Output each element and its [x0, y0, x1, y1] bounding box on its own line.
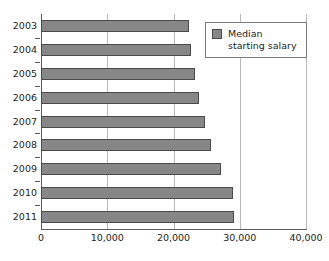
y-axis-tick [35, 38, 40, 39]
y-axis-label-2006: 2006 [3, 92, 37, 104]
x-axis-line [41, 229, 307, 230]
y-axis-tick [35, 157, 40, 158]
bar-2005 [41, 68, 195, 80]
bar-2008 [41, 139, 211, 151]
bar-row [41, 92, 306, 104]
y-axis-tick [35, 110, 40, 111]
y-axis-label-2010: 2010 [3, 187, 37, 199]
x-axis-tick-label-40000: 40,000 [289, 232, 322, 243]
bar-row [41, 139, 306, 151]
x-axis-tick-label-0: 0 [38, 232, 44, 243]
y-axis-label-2011: 2011 [3, 211, 37, 223]
x-axis-tick-labels: 010,00020,00030,00040,000 [0, 232, 329, 248]
y-axis-tick [35, 181, 40, 182]
bar-2011 [41, 211, 234, 223]
bar-row [41, 211, 306, 223]
bar-row [41, 163, 306, 175]
bar-row [41, 68, 306, 80]
bar-row [41, 116, 306, 128]
y-axis-label-2007: 2007 [3, 116, 37, 128]
legend-swatch-median-starting-salary [212, 29, 222, 39]
bar-2004 [41, 44, 191, 56]
y-axis-label-2008: 2008 [3, 139, 37, 151]
y-axis-label-2003: 2003 [3, 20, 37, 32]
y-axis-tick [35, 205, 40, 206]
y-axis-label-2005: 2005 [3, 68, 37, 80]
y-axis-tick [35, 86, 40, 87]
y-axis-tick [35, 133, 40, 134]
y-axis-label-2009: 2009 [3, 163, 37, 175]
bar-row [41, 187, 306, 199]
legend-label: Median starting salary [228, 28, 302, 51]
x-axis-tick-label-30000: 30,000 [223, 232, 256, 243]
y-axis-label-2004: 2004 [3, 44, 37, 56]
bar-2010 [41, 187, 233, 199]
bar-chart: 200320042005200620072008200920102011 010… [0, 0, 329, 261]
x-axis-tick-label-10000: 10,000 [91, 232, 124, 243]
y-axis-labels: 200320042005200620072008200920102011 [0, 14, 37, 229]
bar-2009 [41, 163, 221, 175]
bar-2007 [41, 116, 205, 128]
y-axis-tick [35, 62, 40, 63]
bar-2003 [41, 20, 189, 32]
legend: Median starting salary [205, 22, 307, 58]
bar-2006 [41, 92, 199, 104]
x-axis-tick-label-20000: 20,000 [157, 232, 190, 243]
